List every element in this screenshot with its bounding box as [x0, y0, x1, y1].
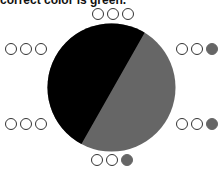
peg-empty[interactable] [176, 118, 188, 130]
peg-row-right-lower [176, 118, 218, 130]
peg-empty[interactable] [5, 43, 17, 55]
split-circle[interactable] [47, 23, 176, 152]
peg-row-top [92, 8, 134, 20]
peg-empty[interactable] [35, 118, 47, 130]
peg-empty[interactable] [122, 8, 134, 20]
peg-empty[interactable] [35, 43, 47, 55]
peg-empty[interactable] [176, 43, 188, 55]
peg-empty[interactable] [191, 43, 203, 55]
peg-filled[interactable] [206, 118, 218, 130]
peg-filled[interactable] [206, 43, 218, 55]
peg-filled[interactable] [121, 154, 133, 166]
peg-empty[interactable] [5, 118, 17, 130]
peg-empty[interactable] [20, 118, 32, 130]
peg-empty[interactable] [20, 43, 32, 55]
peg-empty[interactable] [106, 154, 118, 166]
peg-empty[interactable] [107, 8, 119, 20]
peg-row-left-upper [5, 43, 47, 55]
peg-row-left-lower [5, 118, 47, 130]
peg-row-bottom [91, 154, 133, 166]
peg-empty[interactable] [91, 154, 103, 166]
peg-empty[interactable] [191, 118, 203, 130]
instruction-text: correct color is green. [0, 0, 126, 7]
peg-empty[interactable] [92, 8, 104, 20]
peg-row-right-upper [176, 43, 218, 55]
